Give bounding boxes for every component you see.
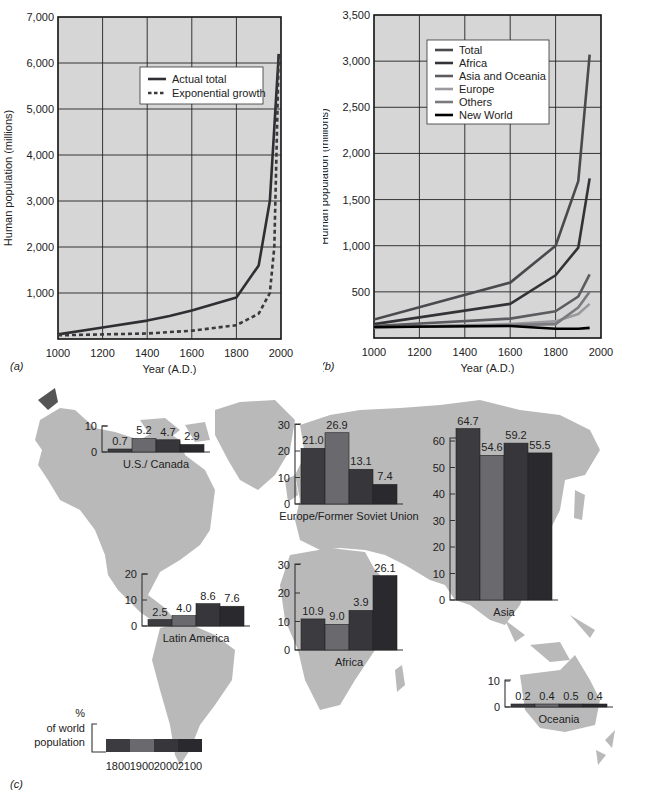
bar-1900 (172, 616, 196, 626)
y-tick-label: 2,000 (342, 147, 370, 159)
bar-2100 (220, 606, 244, 626)
bar-value-label: 13.1 (350, 455, 371, 467)
legend-label: New World (459, 109, 513, 121)
legend-label: Europe (459, 83, 494, 95)
y-tick-label: 500 (352, 286, 370, 298)
bar-1800 (301, 448, 325, 504)
y-tick-label: 10 (125, 594, 137, 606)
y-tick-label: 20 (278, 587, 290, 599)
chart-a: 1000120014001600180020001,0002,0003,0004… (0, 0, 323, 380)
x-tick-label: 1800 (224, 347, 248, 359)
y-tick-label: 20 (433, 541, 445, 553)
panel-label: (a) (10, 360, 24, 372)
y-tick-label: 10 (278, 616, 290, 628)
bar-2000 (196, 604, 220, 626)
y-tick-label: 0 (284, 498, 290, 510)
y-tick-label: 0 (439, 594, 445, 606)
bar-value-label: 64.7 (457, 415, 478, 427)
landmass (395, 665, 405, 692)
bar-1800 (511, 704, 535, 707)
x-tick-label: 2000 (589, 346, 613, 358)
landmass (505, 615, 595, 662)
bar-2100 (180, 444, 204, 452)
y-tick-label: 2,500 (342, 101, 370, 113)
plot-area (58, 17, 281, 339)
legend-swatch-1800 (106, 739, 130, 752)
legend-label: 1900 (130, 760, 154, 772)
y-tick-label: 50 (433, 462, 445, 474)
y-tick-label: 1,000 (342, 240, 370, 252)
bar-1900 (535, 704, 559, 707)
bar-2100 (583, 704, 607, 707)
bar-value-label: 4.0 (176, 602, 191, 614)
region-label: U.S./ Canada (123, 458, 190, 470)
chart-b: 1000120014001600180020005001,0001,5002,0… (323, 0, 646, 380)
bar-1800 (148, 620, 172, 627)
bar-value-label: 21.0 (302, 434, 323, 446)
y-tick-label: 4,000 (26, 149, 54, 161)
x-tick-label: 1000 (362, 346, 386, 358)
region-label: Oceania (539, 713, 581, 725)
y-tick-label: 30 (278, 419, 290, 431)
bar-1800 (108, 449, 132, 452)
bar-value-label: 0.7 (112, 435, 127, 447)
bar-2100 (528, 453, 552, 600)
bar-2100 (373, 484, 397, 504)
bar-value-label: 4.7 (160, 426, 175, 438)
x-axis-label: Year (A.D.) (142, 363, 196, 375)
x-tick-label: 1400 (453, 346, 477, 358)
region-label: Asia (493, 606, 515, 618)
bar-2000 (504, 443, 528, 600)
y-tick-label: 7,000 (26, 11, 54, 23)
svg-text:population: population (34, 736, 85, 748)
landmass (38, 388, 58, 410)
legend-swatch-2000 (154, 739, 178, 752)
bar-1900 (325, 433, 349, 504)
svg-text:of world: of world (46, 722, 85, 734)
bar-2000 (349, 469, 373, 504)
legend-label: Africa (459, 57, 488, 69)
bar-1800 (456, 429, 480, 600)
bar-1900 (325, 624, 349, 650)
y-tick-label: 10 (488, 675, 500, 687)
y-axis-label: Human population (millions) (323, 108, 330, 244)
bar-1900 (132, 438, 156, 452)
x-tick-label: 2000 (269, 347, 293, 359)
x-tick-label: 1800 (543, 346, 567, 358)
bar-value-label: 54.6 (481, 441, 502, 453)
y-axis-label: Human population (millions) (2, 110, 14, 246)
y-tick-label: 60 (433, 435, 445, 447)
y-tick-label: 30 (278, 559, 290, 571)
bar-value-label: 55.5 (529, 439, 550, 451)
svg-text:%: % (75, 707, 85, 719)
y-tick-label: 10 (85, 420, 97, 432)
y-tick-label: 30 (433, 515, 445, 527)
bar-value-label: 5.2 (136, 424, 151, 436)
region-label: Latin America (163, 632, 231, 644)
bar-value-label: 8.6 (200, 590, 215, 602)
bar-value-label: 7.4 (377, 470, 392, 482)
bar-value-label: 3.9 (353, 596, 368, 608)
bar-2100 (373, 576, 397, 650)
legend-swatch-2100 (178, 739, 202, 752)
bar-value-label: 26.1 (374, 562, 395, 574)
x-tick-label: 1600 (498, 346, 522, 358)
panel-label: (c) (10, 778, 23, 790)
y-tick-label: 0 (131, 620, 137, 632)
landmass (574, 490, 585, 520)
y-tick-label: 0 (284, 644, 290, 656)
y-tick-label: 3,500 (342, 9, 370, 21)
x-tick-label: 1000 (46, 347, 70, 359)
legend: TotalAfricaAsia and OceaniaEuropeOthersN… (427, 40, 549, 124)
bar-value-label: 7.6 (224, 592, 239, 604)
legend-label: 2100 (178, 760, 202, 772)
bar-value-label: 2.9 (184, 430, 199, 442)
y-tick-label: 6,000 (26, 57, 54, 69)
y-tick-label: 0 (91, 446, 97, 458)
legend: Actual totalExponential growth (140, 67, 266, 104)
bar-value-label: 0.2 (515, 690, 530, 702)
legend-label: Exponential growth (172, 87, 266, 99)
bar-1800 (301, 619, 325, 650)
x-tick-label: 1200 (90, 347, 114, 359)
bar-value-label: 0.4 (587, 690, 602, 702)
